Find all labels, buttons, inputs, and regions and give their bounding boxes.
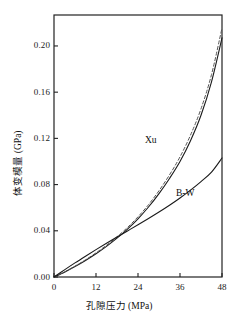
series-label-xu: Xu (145, 136, 157, 146)
y-axis-title: 体变模量 (GPa) (10, 130, 24, 195)
x-tick-label: 0 (42, 283, 66, 292)
y-tick-label: 0.16 (26, 88, 50, 97)
series-label-bw: B-W (176, 189, 194, 199)
y-tick-label: 0.12 (26, 134, 50, 143)
y-tick-label: 0.08 (26, 180, 50, 189)
x-tick-label: 12 (84, 283, 108, 292)
data-series-layer (54, 28, 222, 277)
series-curve-xu-dashed (54, 28, 222, 277)
axes-box (54, 15, 222, 277)
y-axis-title-container: 体变模量 (GPa) (6, 0, 28, 326)
y-tick-label: 0.20 (26, 41, 50, 50)
plot-frame (54, 15, 222, 277)
x-tick-label: 48 (210, 283, 234, 292)
series-curve-xu (54, 38, 222, 277)
x-tick-label: 36 (168, 283, 192, 292)
y-tick-label: 0.04 (26, 226, 50, 235)
chart-figure: 体变模量 (GPa) 孔隙压力 (MPa) 0.000.040.080.120.… (0, 0, 238, 326)
y-tick-label: 0.00 (26, 273, 50, 282)
x-axis-title: 孔隙压力 (MPa) (0, 302, 238, 312)
x-tick-label: 24 (126, 283, 150, 292)
